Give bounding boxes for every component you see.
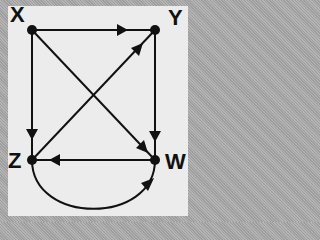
node-y: [150, 25, 160, 35]
node-z: [27, 155, 37, 165]
node-w: [150, 155, 160, 165]
graph-canvas: [0, 0, 198, 222]
arrow-head-z-w: [141, 178, 154, 191]
arrow-head-w-z: [49, 154, 60, 166]
arrow-head-x-z: [26, 129, 38, 140]
arrow-head-x-y: [117, 24, 128, 36]
edge-z-w-curved: [32, 160, 155, 209]
node-x: [27, 25, 37, 35]
arrow-head-y-w: [149, 131, 161, 142]
